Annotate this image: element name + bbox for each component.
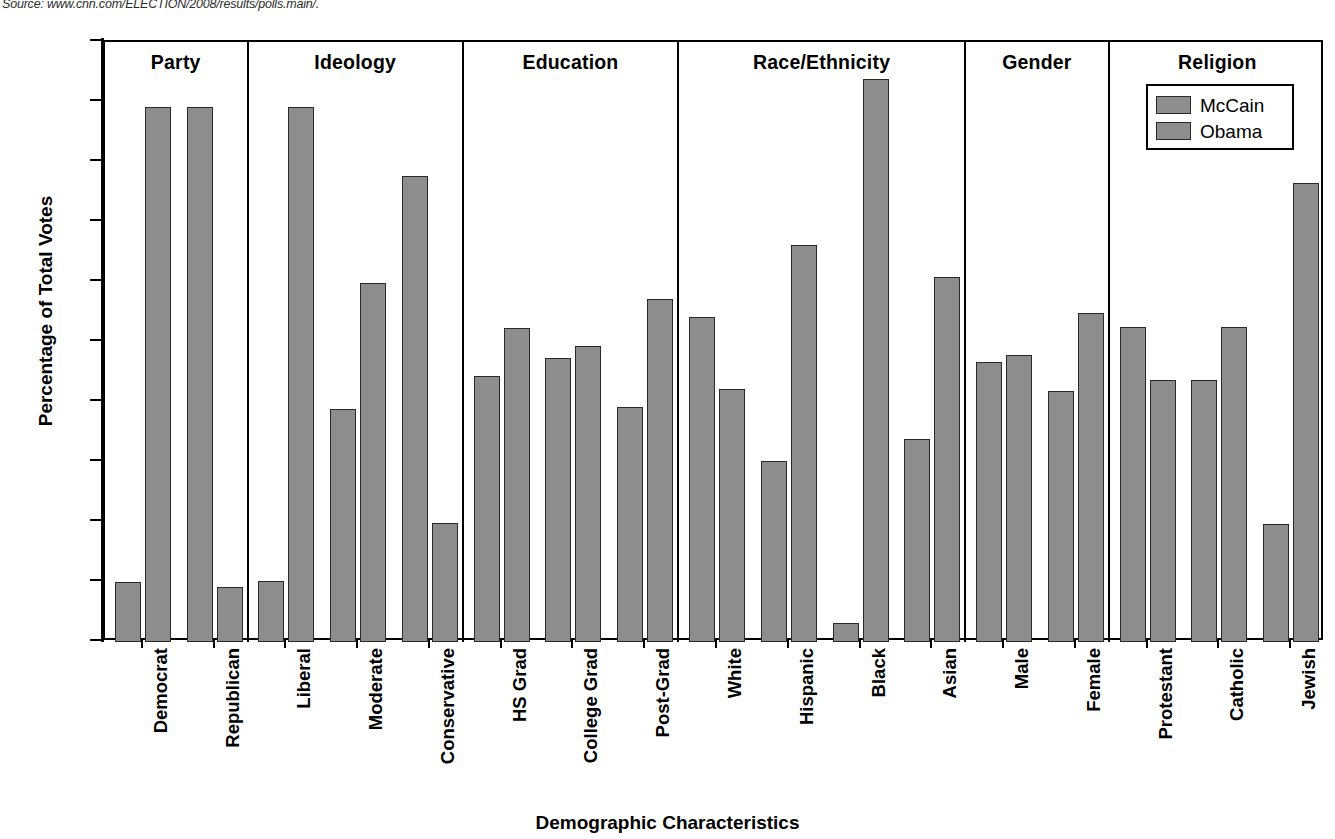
x-axis-tick	[1146, 640, 1148, 648]
x-axis-label: HS Grad	[509, 648, 531, 722]
x-axis-tick	[643, 640, 645, 648]
x-axis-label: Black	[868, 648, 890, 697]
legend-entry-mccain: McCain	[1156, 92, 1284, 118]
x-axis-tick	[428, 640, 430, 648]
x-axis-tick	[500, 640, 502, 648]
x-axis-label: Republican	[222, 648, 244, 748]
bar-mccain	[1263, 524, 1289, 642]
bar-obama	[575, 346, 601, 642]
bar-mccain	[258, 581, 284, 642]
bar-mccain	[545, 358, 571, 642]
legend-swatch-obama	[1156, 122, 1191, 140]
bar-obama	[217, 587, 243, 642]
x-axis-tick	[859, 640, 861, 648]
x-axis-label: Asian	[939, 648, 961, 698]
bar-mccain	[1048, 391, 1074, 642]
bar-mccain	[330, 409, 356, 642]
x-axis-label: White	[724, 648, 746, 698]
bar-mccain	[689, 317, 715, 642]
x-axis-tick	[284, 640, 286, 648]
legend-entry-obama: Obama	[1156, 118, 1284, 144]
bar-mccain	[402, 176, 428, 642]
x-axis-tick	[1217, 640, 1219, 648]
x-axis-tick	[930, 640, 932, 648]
bar-obama	[1293, 183, 1319, 642]
bar-mccain	[1120, 327, 1146, 642]
bar-mccain	[474, 376, 500, 642]
x-axis-tick	[715, 640, 717, 648]
y-axis-title: Percentage of Total Votes	[35, 161, 57, 461]
bar-mccain	[976, 362, 1002, 642]
legend-label-obama: Obama	[1200, 122, 1262, 141]
bar-obama	[1150, 380, 1176, 642]
legend-label-mccain: McCain	[1200, 96, 1264, 115]
legend-swatch-mccain	[1156, 96, 1191, 114]
x-axis-label: Liberal	[293, 648, 315, 709]
bar-chart: 1009080706050403020100 Percentage of Tot…	[0, 0, 1335, 839]
x-axis-title: Demographic Characteristics	[0, 812, 1335, 834]
bar-obama	[719, 389, 745, 642]
x-axis-label: Hispanic	[796, 648, 818, 725]
bar-obama	[504, 328, 530, 642]
x-axis-label: Post-Grad	[652, 648, 674, 737]
bar-obama	[1221, 327, 1247, 642]
x-axis-label: Protestant	[1155, 648, 1177, 740]
bar-obama	[647, 299, 673, 642]
bar-obama	[1006, 355, 1032, 642]
x-axis-tick	[787, 640, 789, 648]
bar-obama	[360, 283, 386, 642]
bar-obama	[1078, 313, 1104, 642]
bar-obama	[934, 277, 960, 642]
bar-mccain	[1191, 380, 1217, 642]
x-axis-label: Catholic	[1226, 648, 1248, 721]
x-axis-tick	[213, 640, 215, 648]
bar-mccain	[904, 439, 930, 642]
x-axis-label: Jewish	[1298, 648, 1320, 710]
x-axis-category-labels: DemocratRepublicanLiberalModerateConserv…	[0, 0, 1335, 200]
x-axis-tick	[1002, 640, 1004, 648]
bar-obama	[791, 245, 817, 642]
bar-mccain	[761, 461, 787, 642]
x-axis-label: Democrat	[150, 648, 172, 733]
bar-mccain	[617, 407, 643, 642]
x-axis-tick	[141, 640, 143, 648]
bar-obama	[432, 523, 458, 642]
bar-mccain	[115, 582, 141, 642]
x-axis-label: Female	[1083, 648, 1105, 712]
x-axis-label: Conservative	[437, 648, 459, 764]
legend: McCain Obama	[1146, 84, 1294, 150]
x-axis-tick	[571, 640, 573, 648]
x-axis-label: College Grad	[580, 648, 602, 763]
x-axis-tick	[1289, 640, 1291, 648]
x-axis-label: Moderate	[365, 648, 387, 730]
x-axis-label: Male	[1011, 648, 1033, 689]
x-axis-tick	[1074, 640, 1076, 648]
x-axis-tick	[356, 640, 358, 648]
